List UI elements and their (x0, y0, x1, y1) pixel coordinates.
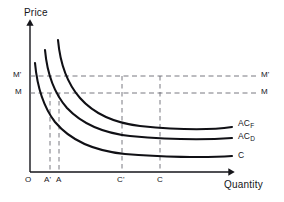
curve-label-AC-F-base: AC (238, 118, 250, 128)
cost-curves (35, 40, 232, 157)
chart-canvas (0, 0, 284, 202)
curve-label-AC-F: ACF (238, 119, 254, 128)
x-label-A: A (56, 176, 62, 184)
economics-cost-curve-figure: Price Quantity O M' M M' M A' A C' C ACF… (0, 0, 284, 202)
y-label-M-left: M (15, 88, 22, 96)
y-axis-title: Price (24, 8, 48, 18)
curve-label-AC-D-base: AC (238, 131, 250, 141)
x-label-A-prime: A' (44, 176, 51, 184)
curve-C (35, 63, 232, 157)
curve-label-AC-F-sub: F (250, 122, 254, 129)
x-axis-title: Quantity (224, 180, 263, 190)
curve-label-AC-D: ACD (238, 132, 255, 141)
horizontal-guide-lines (30, 76, 258, 93)
curve-AC-F (58, 40, 232, 129)
origin-label: O (25, 176, 31, 184)
curve-label-C: C (238, 151, 244, 160)
x-label-C-prime: C' (117, 176, 125, 184)
y-label-M-prime-left: M' (13, 71, 22, 79)
curve-label-AC-D-sub: D (250, 135, 255, 142)
x-label-C: C (157, 176, 163, 184)
curve-label-C-base: C (238, 150, 244, 160)
vertical-guide-lines (50, 76, 160, 172)
y-label-M-prime-right: M' (261, 71, 270, 79)
y-label-M-right: M (261, 88, 268, 96)
